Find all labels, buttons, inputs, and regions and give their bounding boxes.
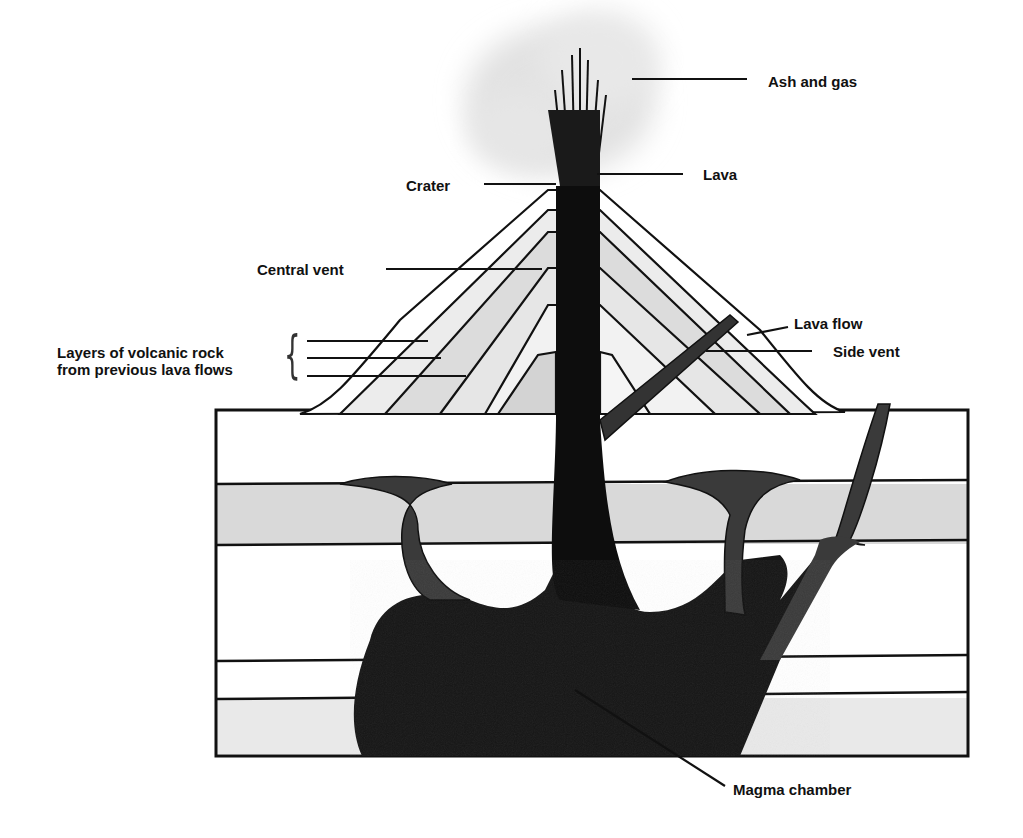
volcano-diagram [0,0,1023,838]
label-central-vent: Central vent [257,261,344,278]
brace-icon: { [284,328,301,380]
label-layers-line2: from previous lava flows [57,361,233,378]
label-crater: Crater [406,177,450,194]
label-lava: Lava [703,166,737,183]
label-side-vent: Side vent [833,343,900,360]
label-lava-flow: Lava flow [794,315,862,332]
label-ash-and-gas: Ash and gas [768,73,857,90]
label-magma-chamber: Magma chamber [733,781,851,798]
label-layers-line1: Layers of volcanic rock [57,344,224,361]
